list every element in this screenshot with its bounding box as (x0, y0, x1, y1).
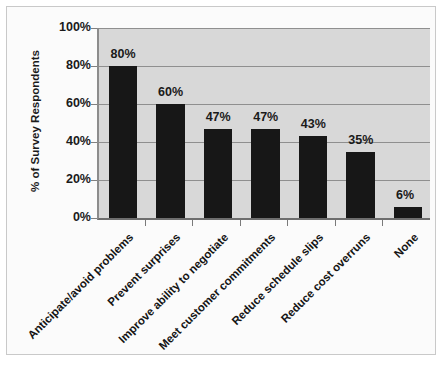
bar (299, 136, 328, 218)
y-axis-tick-mark (91, 104, 97, 105)
bar (109, 66, 138, 218)
bar (204, 129, 233, 218)
bar-value-label: 35% (348, 133, 373, 147)
gridline (99, 28, 430, 29)
y-axis-tick-label: 100% (43, 21, 91, 34)
y-axis-tick-mark (91, 142, 97, 143)
x-axis-tick-mark (287, 220, 288, 226)
y-axis-tick-mark (91, 66, 97, 67)
gridline (99, 104, 430, 105)
bar (394, 207, 423, 218)
bar-value-label: 47% (253, 110, 278, 124)
y-axis-tick-label: 80% (43, 59, 91, 72)
y-axis-tick-label: 40% (43, 135, 91, 148)
y-axis-title: % of Survey Respondents (27, 46, 43, 196)
x-axis-tick-mark (335, 220, 336, 226)
bar (346, 152, 375, 219)
bar-value-label: 60% (158, 85, 183, 99)
gridline (99, 66, 430, 67)
gridline (99, 218, 430, 219)
y-axis-tick-mark (91, 180, 97, 181)
x-axis-tick-mark (192, 220, 193, 226)
y-axis-tick-mark (91, 218, 97, 219)
bar (156, 104, 185, 218)
bar-value-label: 47% (206, 110, 231, 124)
bar-value-label: 6% (396, 188, 414, 202)
y-axis-tick-labels: 0%20%40%60%80%100% (43, 21, 91, 233)
plot-area: 80%60%47%47%43%35%6% (97, 28, 430, 220)
chart-figure: % of Survey Respondents 0%20%40%60%80%10… (6, 6, 436, 355)
bar (251, 129, 280, 218)
y-axis-tick-label: 60% (43, 97, 91, 110)
x-axis-tick-mark (240, 220, 241, 226)
x-axis-tick-mark (382, 220, 383, 226)
y-axis-tick-label: 0% (43, 211, 91, 224)
bar-value-label: 80% (111, 47, 136, 61)
y-axis-tick-mark (91, 28, 97, 29)
x-axis-category-labels: Anticipate/avoid problemsPrevent surpris… (7, 225, 437, 355)
y-axis-tick-label: 20% (43, 173, 91, 186)
x-axis-tick-mark (145, 220, 146, 226)
bar-value-label: 43% (301, 117, 326, 131)
